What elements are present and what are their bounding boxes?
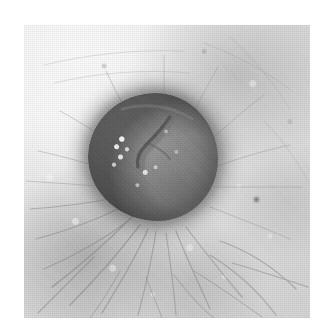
- lesion-keratin-speckles: [88, 93, 218, 221]
- skin-lesion-nodule: [88, 93, 218, 221]
- skin-dot: [254, 197, 259, 202]
- photo-plate: [0, 0, 329, 335]
- clinical-photograph: [24, 25, 310, 318]
